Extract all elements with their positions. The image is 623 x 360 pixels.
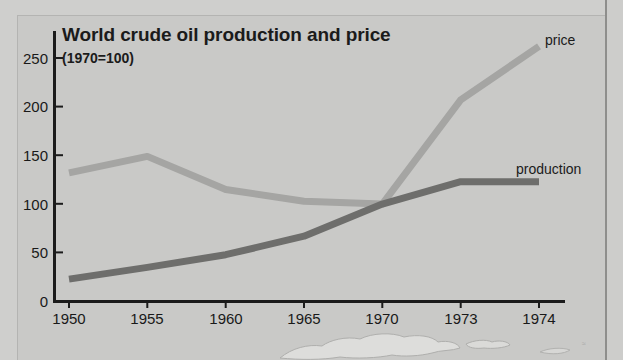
y-tick-label-200: 200 (8, 98, 48, 115)
y-tick-label-50: 50 (8, 244, 48, 261)
y-tick-label-100: 100 (8, 196, 48, 213)
y-tick-label-250: 250 (8, 50, 48, 67)
x-tick-label-1950: 1950 (34, 310, 104, 327)
y-axis-ticks (56, 58, 63, 252)
y-tick-label-0: 0 (8, 293, 48, 310)
x-tick-label-1965: 1965 (269, 310, 339, 327)
x-tick-label-1960: 1960 (191, 310, 261, 327)
x-tick-label-1970: 1970 (347, 310, 417, 327)
chart-figure: ≈ World crude oil prod (0, 0, 623, 360)
x-tick-label-1955: 1955 (112, 310, 182, 327)
series-line-production (69, 182, 539, 279)
chart-title: World crude oil production and price (62, 24, 391, 46)
series-label-production: production (516, 161, 581, 177)
x-tick-label-1973: 1973 (426, 310, 496, 327)
chart-subtitle: (1970=100) (62, 50, 134, 66)
y-tick-label-150: 150 (8, 147, 48, 164)
x-tick-label-1974: 1974 (504, 310, 574, 327)
series-label-price: price (545, 32, 575, 48)
